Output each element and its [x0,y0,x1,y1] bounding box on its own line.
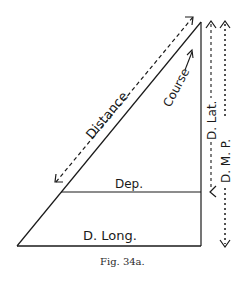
dep-label: Dep. [115,177,143,191]
figure-caption: Fig. 34a. [100,256,145,267]
d-mp-arrow [220,21,230,247]
hypotenuse-line [17,22,201,246]
triangle [17,22,201,246]
course-label-group: Course [160,50,193,109]
d-long-label: D. Long. [83,228,137,243]
course-arrow-shaft [185,52,192,70]
figure-34a-diagram: Distance Course D. Lat. D. M. P. Dep. D.… [0,0,247,284]
d-mp-label: D. M. P. [219,139,233,183]
course-label: Course [160,66,192,110]
d-lat-label: D. Lat. [205,101,219,140]
d-lat-arrow-down-icon [210,186,216,197]
